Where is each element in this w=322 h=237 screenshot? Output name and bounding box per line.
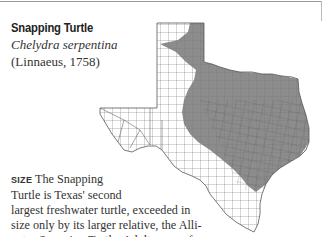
section-label: SIZE — [11, 175, 32, 185]
species-common-name: Snapping Turtle — [11, 21, 93, 35]
paragraph-line: largest freshwater turtle, exceeded in — [11, 203, 216, 218]
paragraph-line: gator Snapping Turtle. Adults range from — [11, 233, 216, 237]
paragraph-line: SIZE The Snapping — [11, 172, 216, 188]
paragraph-line: Turtle is Texas' second — [11, 188, 216, 203]
species-scientific-name: Chelydra serpentina — [11, 37, 118, 53]
size-paragraph: SIZE The Snapping Turtle is Texas' secon… — [11, 172, 216, 237]
paragraph-line: size only by its larger relative, the Al… — [11, 218, 216, 233]
species-authority: (Linnaeus, 1758) — [11, 54, 100, 70]
